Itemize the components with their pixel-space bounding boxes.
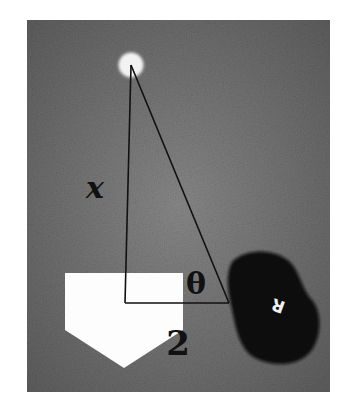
label-theta: θ [186,266,206,301]
label-x: x [85,170,105,205]
label-2: 2 [166,323,190,363]
diagram-figure: R x θ 2 [0,0,345,416]
